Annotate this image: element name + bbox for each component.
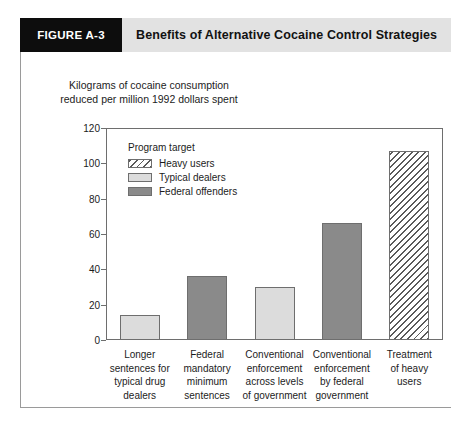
figure-number-badge: FIGURE A-3	[20, 18, 122, 52]
y-axis-caption-line-2: reduced per million 1992 dollars spent	[34, 92, 264, 106]
x-axis-tick-label-line: minimum	[173, 375, 240, 389]
figure-title: Benefits of Alternative Cocaine Control …	[136, 18, 437, 52]
x-axis-tick-label: Federalmandatoryminimumsentences	[173, 348, 240, 402]
legend-item: Heavy users	[128, 156, 237, 170]
bar	[187, 276, 227, 340]
x-axis-tick-label-line: Longer	[106, 348, 173, 362]
x-axis-tick-label: Treatmentof heavyusers	[376, 348, 443, 389]
bar	[389, 151, 429, 340]
y-axis-tick-labels: 020406080100120	[74, 0, 100, 426]
legend-item: Typical dealers	[128, 170, 237, 184]
y-axis-tick-label: 40	[74, 264, 100, 275]
x-axis-tick-label-line: typical drug	[106, 375, 173, 389]
y-axis-tick-label: 80	[74, 193, 100, 204]
x-axis-tick-labels: Longersentences fortypical drugdealersFe…	[106, 348, 443, 406]
x-axis-tick-label-line: enforcement	[308, 362, 375, 376]
x-axis-tick-label-line: sentences	[173, 389, 240, 403]
legend-swatch	[128, 173, 152, 182]
y-axis-caption-line-1: Kilograms of cocaine consumption	[34, 78, 264, 92]
legend-title: Program target	[128, 142, 237, 153]
y-axis-tick-label: 100	[74, 158, 100, 169]
y-axis-tick-label: 120	[74, 123, 100, 134]
x-axis-tick-label-line: government	[308, 389, 375, 403]
x-axis-tick-label-line: dealers	[106, 389, 173, 403]
x-axis-tick-label-line: of government	[241, 389, 308, 403]
legend-swatch	[128, 187, 152, 196]
x-axis-tick-label-line: sentences for	[106, 362, 173, 376]
x-axis-tick-label-line: across levels	[241, 375, 308, 389]
x-axis-tick-label-line: Federal	[173, 348, 240, 362]
legend-items: Heavy usersTypical dealersFederal offend…	[128, 156, 237, 198]
x-axis-tick-label: Conventionalenforcementacross levelsof g…	[241, 348, 308, 402]
y-axis-tick-label: 60	[74, 229, 100, 240]
legend-item-label: Typical dealers	[159, 172, 226, 183]
bar	[322, 223, 362, 340]
chart-legend: Program target Heavy usersTypical dealer…	[128, 142, 237, 198]
y-axis-tick-mark	[101, 340, 106, 341]
y-axis-tick-label: 20	[74, 299, 100, 310]
x-axis-tick-label: Conventionalenforcementby federalgovernm…	[308, 348, 375, 402]
x-axis-tick-label-line: mandatory	[173, 362, 240, 376]
y-axis-tick-label: 0	[74, 335, 100, 346]
x-axis-tick-label-line: users	[376, 375, 443, 389]
y-axis-caption: Kilograms of cocaine consumption reduced…	[34, 78, 264, 106]
x-axis-tick-label-line: by federal	[308, 375, 375, 389]
legend-swatch	[128, 159, 152, 168]
x-axis-tick-label-line: Conventional	[241, 348, 308, 362]
x-axis-tick-label-line: of heavy	[376, 362, 443, 376]
bar	[120, 315, 160, 340]
bar	[255, 287, 295, 340]
x-axis-tick-label-line: Treatment	[376, 348, 443, 362]
legend-item-label: Heavy users	[159, 158, 215, 169]
x-axis-tick-label: Longersentences fortypical drugdealers	[106, 348, 173, 402]
legend-item-label: Federal offenders	[159, 186, 237, 197]
x-axis-tick-label-line: Conventional	[308, 348, 375, 362]
figure-container: FIGURE A-3 Benefits of Alternative Cocai…	[0, 0, 471, 426]
x-axis-tick-label-line: enforcement	[241, 362, 308, 376]
legend-item: Federal offenders	[128, 184, 237, 198]
